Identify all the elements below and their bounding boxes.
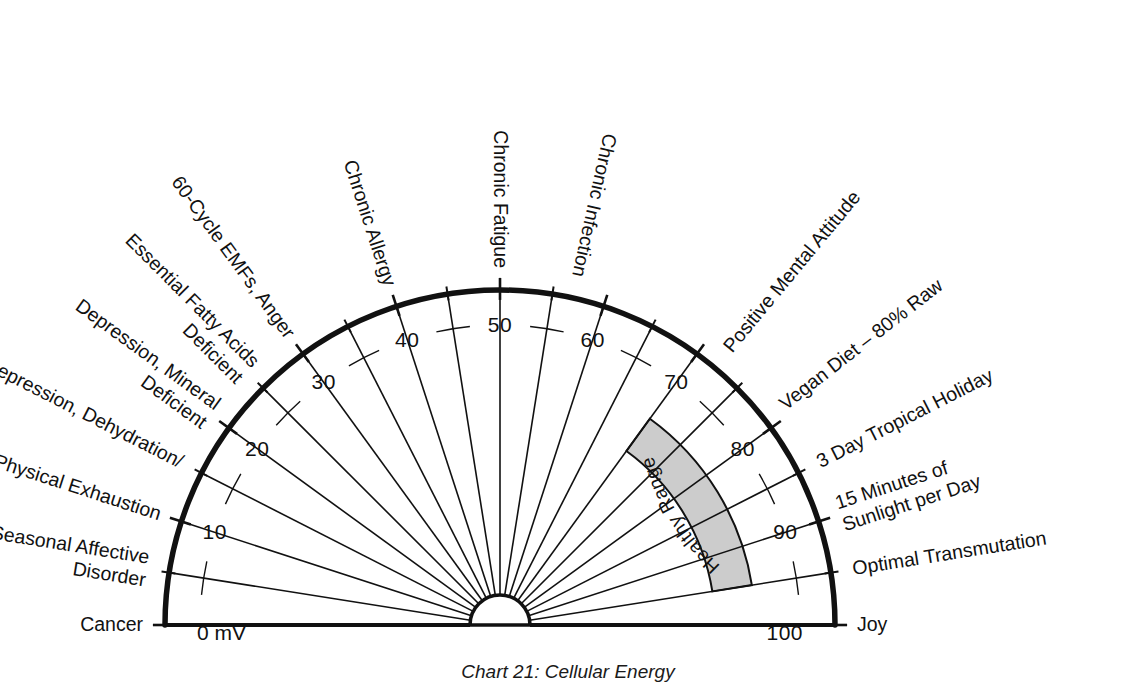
chart-canvas: 0 mV102030405060708090100CancerSeasonal … — [0, 0, 1136, 684]
chart-caption: Chart 21: Cellular Energy — [461, 661, 676, 682]
gauge-caption-layer: Chart 21: Cellular Energy — [0, 0, 1136, 684]
